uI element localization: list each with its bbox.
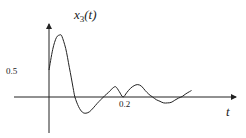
y-axis-title: x3(t) (73, 7, 97, 24)
x-axis-title: t (226, 104, 230, 119)
y-tick-label: 0.5 (6, 66, 18, 76)
chart: 0.5 0.2 x3(t) t (0, 0, 246, 138)
x-tick-label: 0.2 (119, 99, 130, 109)
y-axis-title-arg: (t) (84, 7, 96, 22)
